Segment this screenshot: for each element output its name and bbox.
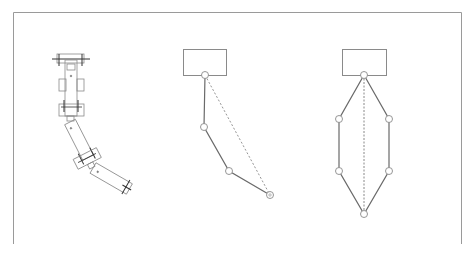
- chain-chord-dashed: [205, 75, 270, 195]
- loop-node: [386, 116, 393, 123]
- chain-links: [204, 75, 270, 195]
- chain-end-node: [267, 192, 274, 199]
- chain-model-figure: [184, 50, 274, 199]
- closed-loop-model-figure: [336, 50, 393, 218]
- loop-node: [361, 211, 368, 218]
- loop-node: [336, 116, 343, 123]
- diagram-canvas: [0, 0, 473, 253]
- chain-node: [226, 168, 233, 175]
- loop-node: [361, 72, 368, 79]
- chain-node: [201, 124, 208, 131]
- mechanical-arm-figure: [52, 54, 135, 197]
- loop-node: [336, 168, 343, 175]
- loop-links: [339, 75, 389, 214]
- figure-frame: [14, 13, 462, 245]
- loop-node: [386, 168, 393, 175]
- chain-node: [202, 72, 209, 79]
